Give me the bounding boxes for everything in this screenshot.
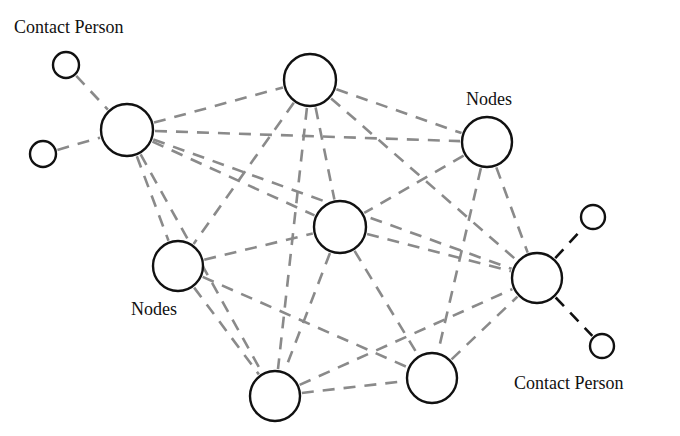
node-circle-n2 [284,54,336,106]
edge-n1-n5 [152,142,314,216]
node-circle-n3 [462,117,512,167]
edge-n6-c3 [555,227,583,258]
edge-n8-n6 [452,297,518,360]
label-nodes-left: Nodes [131,300,177,318]
edge-n7-n8 [302,381,405,393]
contact-person-circle-c3 [581,205,605,229]
label-contact-person-top-left: Contact Person [14,18,124,36]
edge-n6-c4 [556,298,593,336]
label-nodes-top-right: Nodes [466,90,512,108]
label-contact-person-bottom-right: Contact Person [514,374,624,392]
node-circle-n5 [314,201,366,253]
edge-c1-n1 [76,76,108,110]
edge-n1-n3 [155,131,460,141]
contact-person-circle-c1 [53,52,79,78]
edge-n3-n6 [496,167,527,252]
edge-n5-n8 [355,251,418,355]
edge-n1-n2 [154,87,283,122]
edge-c2-n1 [57,138,100,150]
network-graph [0,0,680,436]
edge-n2-n5 [316,107,335,199]
node-circle-n7 [250,371,300,421]
node-circle-n8 [407,353,457,403]
edge-n2-n3 [336,89,461,133]
contact-person-circle-c4 [590,334,614,358]
edge-n5-n6 [367,234,511,271]
network-diagram: Contact Person Nodes Nodes Contact Perso… [0,0,680,436]
edge-n7-n6 [300,289,513,385]
edge-n2-n4 [194,103,294,244]
contact-person-circle-c2 [30,141,56,167]
node-circle-n1 [101,104,153,156]
edge-n3-n5 [364,156,463,213]
edge-n5-n7 [285,253,330,371]
edge-n4-n5 [204,234,313,260]
node-circle-n4 [153,241,203,291]
node-circle-n6 [512,253,562,303]
node-layer [30,52,614,421]
edge-n4-n7 [194,288,259,375]
